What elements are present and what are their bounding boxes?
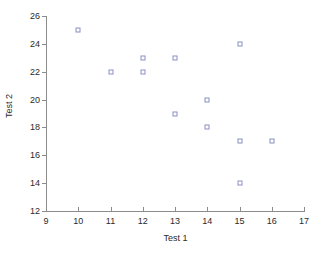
y-tick-label: 16: [30, 151, 40, 160]
x-axis-line: [46, 211, 305, 212]
y-tick-label: 14: [30, 179, 40, 188]
x-tick-label: 11: [106, 217, 115, 226]
data-point: [205, 125, 210, 130]
y-tick-mark: [42, 44, 46, 45]
x-tick-label: 15: [234, 217, 244, 226]
y-tick-label: 20: [30, 95, 40, 104]
x-tick-mark: [46, 207, 47, 211]
y-axis-title-text: Test 2: [4, 94, 14, 118]
data-point: [76, 27, 81, 32]
x-tick-mark: [143, 207, 144, 211]
data-point: [269, 139, 274, 144]
y-tick-label: 24: [30, 39, 40, 48]
data-point: [237, 41, 242, 46]
x-tick-label: 13: [170, 217, 180, 226]
data-point: [205, 97, 210, 102]
data-point: [108, 69, 113, 74]
x-axis-title: Test 1: [46, 233, 305, 243]
scatter-plot: Test 2 121416182022242691011121314151617…: [0, 0, 321, 255]
y-tick-mark: [42, 72, 46, 73]
y-tick-mark: [42, 16, 46, 17]
x-tick-label: 14: [202, 217, 212, 226]
y-tick-mark: [42, 211, 46, 212]
y-tick-label: 22: [30, 67, 40, 76]
y-tick-label: 18: [30, 123, 40, 132]
x-tick-mark: [304, 207, 305, 211]
data-point: [140, 69, 145, 74]
data-point: [140, 55, 145, 60]
x-tick-label: 12: [138, 217, 148, 226]
data-point: [237, 139, 242, 144]
x-tick-label: 16: [267, 217, 277, 226]
y-tick-label: 12: [30, 207, 40, 216]
x-tick-mark: [111, 207, 112, 211]
data-point: [173, 111, 178, 116]
y-tick-mark: [42, 100, 46, 101]
y-tick-mark: [42, 155, 46, 156]
plot-area: 121416182022242691011121314151617: [46, 16, 304, 211]
y-tick-mark: [42, 183, 46, 184]
y-tick-label: 26: [30, 12, 40, 21]
x-tick-mark: [240, 207, 241, 211]
y-axis-title: Test 2: [2, 0, 16, 212]
x-tick-label: 10: [73, 217, 83, 226]
x-tick-mark: [272, 207, 273, 211]
x-tick-label: 9: [43, 217, 48, 226]
x-tick-mark: [207, 207, 208, 211]
data-point: [237, 181, 242, 186]
x-tick-mark: [175, 207, 176, 211]
x-tick-mark: [78, 207, 79, 211]
y-tick-mark: [42, 127, 46, 128]
x-tick-label: 17: [299, 217, 309, 226]
data-point: [173, 55, 178, 60]
